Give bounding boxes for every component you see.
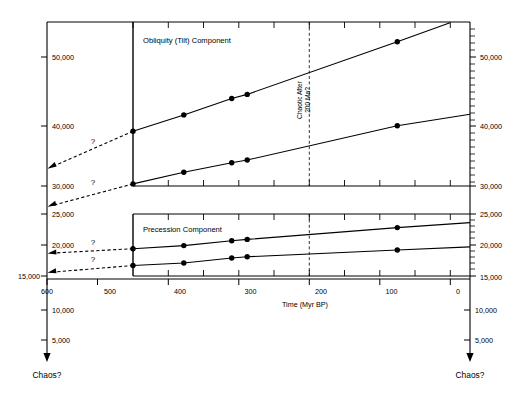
x-tick-600: 600 <box>41 287 53 296</box>
precession-lower-extrap-label: ? <box>91 255 96 264</box>
chaos-right-tick-10000: 10,000 <box>475 306 497 315</box>
left-tick-15000: 15,000 <box>18 272 40 281</box>
left-tick-25000: 25,000 <box>52 210 74 219</box>
chart-figure: 50,000 40,000 30,000 25,000 20,000 15,00… <box>0 0 517 393</box>
x-tick-300: 300 <box>245 287 257 296</box>
x-tick-500: 500 <box>104 287 116 296</box>
chaotic-after-label-line2: 200 Ma? <box>304 87 311 113</box>
x-tick-100: 100 <box>386 287 398 296</box>
x-tick-200: 200 <box>315 287 327 296</box>
chaos-left-label: Chaos? <box>33 370 62 380</box>
right-tick-40000: 40,000 <box>480 122 502 131</box>
precession-upper-extrap-label: ? <box>91 238 96 247</box>
figure-background <box>0 0 517 393</box>
right-tick-25000: 25,000 <box>480 210 502 219</box>
x-axis-label: Time (Myr BP) <box>282 300 328 309</box>
left-tick-20000: 20,000 <box>52 241 74 250</box>
x-tick-0: 0 <box>456 287 460 296</box>
chaos-right-label: Chaos? <box>456 370 485 380</box>
left-tick-30000: 30,000 <box>52 182 74 191</box>
chaos-right-tick-5000: 5,000 <box>475 336 493 345</box>
chaos-left-tick-5000: 5,000 <box>52 336 70 345</box>
x-tick-400: 400 <box>174 287 186 296</box>
right-tick-50000: 50,000 <box>480 53 502 62</box>
chaotic-after-label-line1: Chaotic After <box>296 80 303 119</box>
precession-panel-title: Precession Component <box>143 225 223 234</box>
right-tick-20000: 20,000 <box>480 241 502 250</box>
obliquity-upper-extrap-label: ? <box>91 137 96 146</box>
obliquity-lower-extrap-label: ? <box>91 178 96 187</box>
left-tick-40000: 40,000 <box>52 122 74 131</box>
obliquity-panel-title: Obliquity (Tilt) Component <box>143 36 232 45</box>
chaos-left-tick-10000: 10,000 <box>52 306 74 315</box>
right-tick-30000: 30,000 <box>480 182 502 191</box>
right-tick-15000: 15,000 <box>480 273 502 282</box>
left-tick-50000: 50,000 <box>52 53 74 62</box>
